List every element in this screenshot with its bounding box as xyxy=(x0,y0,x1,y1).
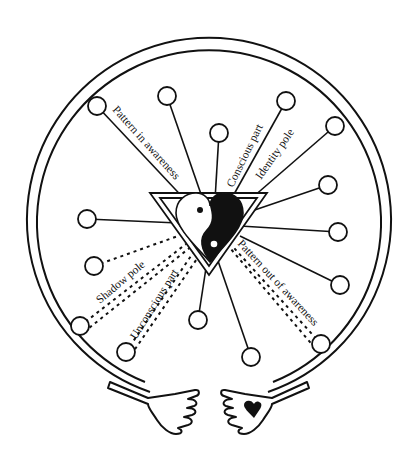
node xyxy=(312,335,330,353)
node xyxy=(277,92,295,110)
node xyxy=(78,210,96,228)
node xyxy=(331,276,349,294)
label-unconscious-part: Unconscious part xyxy=(128,266,182,342)
node xyxy=(71,317,89,335)
node xyxy=(117,343,135,361)
diagram-canvas: Pattern in awareness Conscious part Iden… xyxy=(0,0,417,464)
label-pattern-in-awareness: Pattern in awareness xyxy=(111,103,184,182)
right-hand-icon xyxy=(221,382,309,434)
node xyxy=(329,223,347,241)
left-hand-icon xyxy=(108,382,199,434)
node xyxy=(210,124,228,142)
node xyxy=(88,97,106,115)
node xyxy=(319,176,337,194)
node xyxy=(326,117,344,135)
node xyxy=(189,311,207,329)
node xyxy=(242,348,260,366)
label-pattern-out-of-awareness: Pattern out of awareness xyxy=(236,237,322,328)
node xyxy=(85,257,103,275)
node xyxy=(158,87,176,105)
